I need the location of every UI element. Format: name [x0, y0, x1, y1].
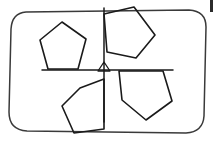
pentagon-top-left — [40, 22, 86, 69]
pentagon-bottom-right — [119, 71, 172, 120]
pentagon-top-right — [104, 7, 155, 58]
edge-scan-artifact — [210, 0, 213, 12]
figure-canvas — [0, 0, 218, 141]
pentagon-rotation-diagram — [0, 0, 218, 141]
pentagon-bottom-left — [62, 79, 104, 133]
